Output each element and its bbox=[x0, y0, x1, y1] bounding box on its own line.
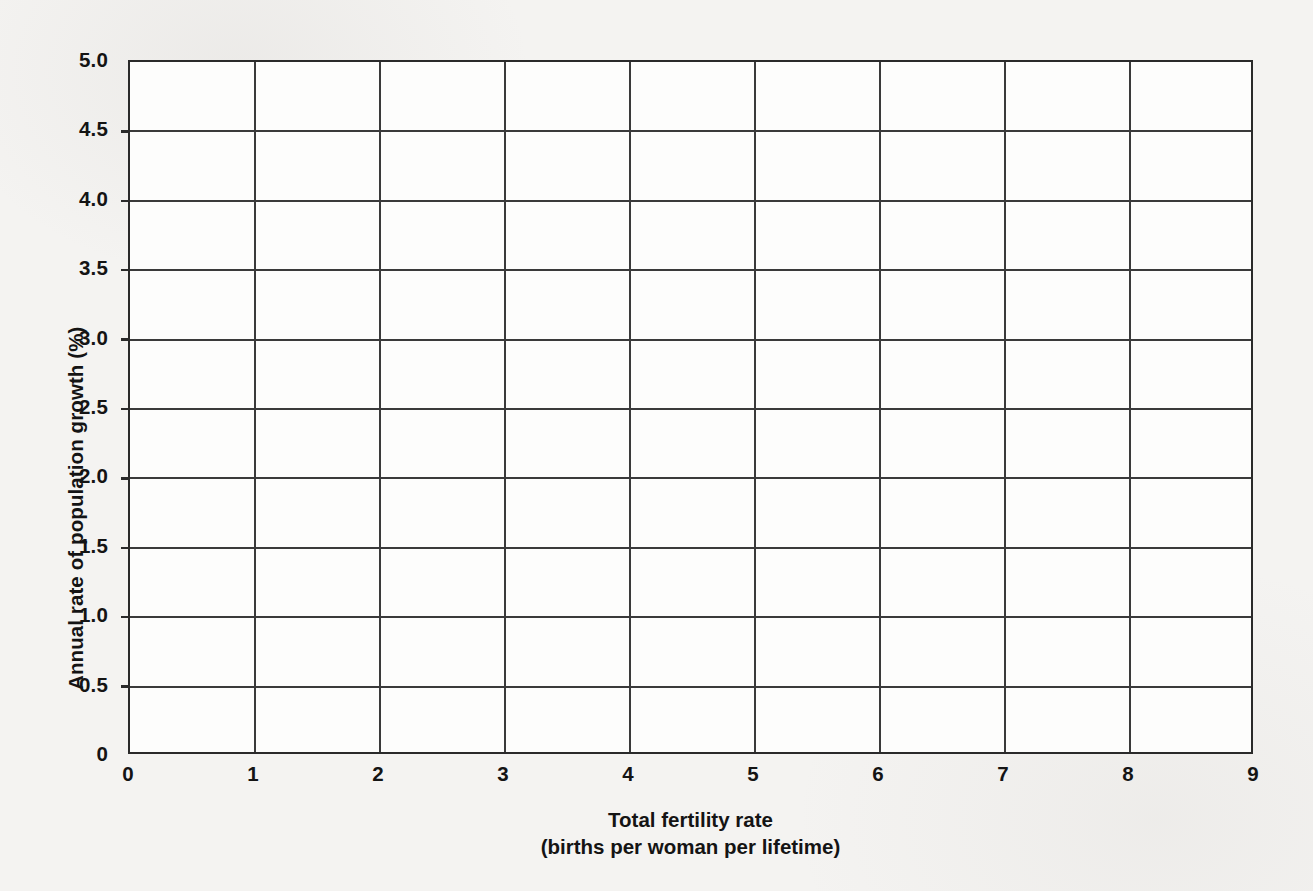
y-axis-tick-label: 5.0 bbox=[79, 48, 108, 72]
x-axis-tick-label: 4 bbox=[622, 762, 633, 786]
gridline-horizontal bbox=[130, 408, 1251, 410]
gridline-vertical bbox=[1129, 62, 1131, 752]
gridline-horizontal bbox=[130, 339, 1251, 341]
x-axis-tick-label: 1 bbox=[247, 762, 258, 786]
x-axis-tick-label: 5 bbox=[747, 762, 758, 786]
gridline-horizontal bbox=[130, 477, 1251, 479]
gridline-horizontal bbox=[130, 547, 1251, 549]
x-axis-tick-label: 9 bbox=[1247, 762, 1258, 786]
gridline-vertical bbox=[254, 62, 256, 752]
y-axis-tick-mark bbox=[121, 616, 130, 618]
chart-page: Annual rate of population growth (%) 00.… bbox=[0, 0, 1313, 891]
y-axis-tick-mark bbox=[121, 338, 130, 340]
y-axis-tick-mark bbox=[121, 200, 130, 202]
y-axis-tick-mark bbox=[121, 130, 130, 132]
gridline-vertical bbox=[879, 62, 881, 752]
gridline-horizontal bbox=[130, 616, 1251, 618]
x-axis-title-sub: (births per woman per lifetime) bbox=[128, 833, 1253, 860]
y-axis-tick-label: 0 bbox=[96, 742, 108, 766]
gridline-vertical bbox=[504, 62, 506, 752]
plot-area bbox=[128, 60, 1253, 754]
y-axis-tick-label: 4.0 bbox=[79, 187, 108, 211]
x-axis-tick-label: 3 bbox=[497, 762, 508, 786]
x-axis-tick-label: 8 bbox=[1122, 762, 1133, 786]
y-axis-tick-mark bbox=[121, 477, 130, 479]
x-axis-tick-label: 0 bbox=[122, 762, 133, 786]
y-axis-tick-label: 1.0 bbox=[79, 603, 108, 627]
gridline-horizontal bbox=[130, 269, 1251, 271]
y-axis-tick-label: 3.0 bbox=[79, 326, 108, 350]
gridline-vertical bbox=[629, 62, 631, 752]
x-axis-title-main: Total fertility rate bbox=[128, 806, 1253, 833]
x-axis-title: Total fertility rate (births per woman p… bbox=[128, 806, 1253, 861]
gridline-horizontal bbox=[130, 686, 1251, 688]
gridline-vertical bbox=[1004, 62, 1006, 752]
y-axis-tick-label: 0.5 bbox=[79, 673, 108, 697]
y-axis-tick-mark bbox=[121, 269, 130, 271]
y-axis-tick-label: 2.5 bbox=[79, 395, 108, 419]
y-axis-tick-label: 3.5 bbox=[79, 256, 108, 280]
gridline-horizontal bbox=[130, 130, 1251, 132]
grid-layer bbox=[130, 62, 1251, 752]
gridline-vertical bbox=[379, 62, 381, 752]
y-axis-tick-mark bbox=[121, 408, 130, 410]
y-axis-tick-label: 1.5 bbox=[79, 534, 108, 558]
y-axis-tick-label: 2.0 bbox=[79, 464, 108, 488]
y-axis-tick-mark bbox=[121, 547, 130, 549]
gridline-vertical bbox=[754, 62, 756, 752]
x-axis-tick-label: 2 bbox=[372, 762, 383, 786]
y-axis-tick-label: 4.5 bbox=[79, 117, 108, 141]
y-axis-tick-mark bbox=[121, 685, 130, 687]
gridline-horizontal bbox=[130, 200, 1251, 202]
x-axis-tick-label: 6 bbox=[872, 762, 883, 786]
y-axis-title: Annual rate of population growth (%) bbox=[64, 327, 88, 690]
x-axis-tick-label: 7 bbox=[997, 762, 1008, 786]
